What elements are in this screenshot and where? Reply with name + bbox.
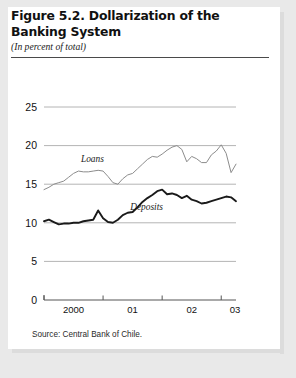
- y-axis-tick-label: 25: [25, 101, 37, 113]
- y-axis-tick-label: 15: [25, 178, 37, 190]
- y-axis-tick-label: 0: [31, 294, 37, 306]
- figure-container: Figure 5.2. Dollarization of the Banking…: [0, 0, 296, 378]
- chart-plot-area: 0510152025 2000010203 LoansDeposits: [0, 0, 296, 378]
- series-label-deposits: Deposits: [129, 202, 163, 212]
- series-label-loans: Loans: [80, 154, 104, 164]
- series-annotations-group: LoansDeposits: [80, 154, 163, 213]
- line-chart-svg: 0510152025 2000010203 LoansDeposits: [0, 0, 296, 378]
- series-line-loans: [44, 145, 236, 190]
- x-axis-tick-label: 2000: [63, 304, 84, 315]
- y-axis-tick-label: 20: [25, 139, 37, 151]
- y-axis-tick-label: 5: [31, 255, 37, 267]
- x-axis-tick-label: 01: [127, 304, 138, 315]
- y-axis-ticks-group: 0510152025: [25, 101, 37, 306]
- x-axis-group: 2000010203: [44, 295, 240, 315]
- source-note: Source: Central Bank of Chile.: [32, 330, 142, 339]
- gridlines-group: [44, 107, 236, 261]
- y-axis-tick-label: 10: [25, 217, 37, 229]
- x-axis-tick-label: 02: [186, 304, 197, 315]
- x-axis-tick-label: 03: [230, 304, 241, 315]
